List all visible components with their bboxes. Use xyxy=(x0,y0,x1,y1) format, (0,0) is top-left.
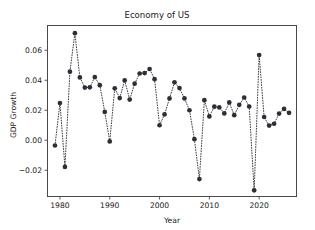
y-tick-label: −0.02 xyxy=(19,166,42,175)
data-point xyxy=(167,96,172,101)
y-tick-label: 0.00 xyxy=(25,136,42,145)
data-point xyxy=(232,113,237,118)
data-point xyxy=(262,115,267,120)
data-point xyxy=(237,103,242,108)
y-axis-ticks: −0.020.000.020.040.06 xyxy=(19,46,48,175)
data-point xyxy=(147,67,152,72)
data-point xyxy=(92,75,97,80)
data-point xyxy=(177,86,182,91)
data-point xyxy=(242,95,247,100)
x-axis-ticks: 19801990200020102020 xyxy=(50,197,269,211)
chart-figure: Economy of US Year GDP Growth −0.020.000… xyxy=(0,0,315,230)
data-point xyxy=(127,97,132,102)
x-tick-label: 2000 xyxy=(150,201,169,210)
data-point xyxy=(152,77,157,82)
y-tick-label: 0.06 xyxy=(25,46,42,55)
x-tick-label: 1980 xyxy=(50,201,69,210)
chart-canvas: Economy of US Year GDP Growth −0.020.000… xyxy=(0,0,315,230)
data-point xyxy=(117,96,122,101)
plot-background xyxy=(48,26,297,197)
data-point xyxy=(73,31,78,36)
data-point xyxy=(63,165,68,170)
data-point xyxy=(53,143,58,148)
data-point xyxy=(122,78,127,83)
y-axis-label: GDP Growth xyxy=(9,92,18,138)
x-tick-label: 2010 xyxy=(200,201,219,210)
data-point xyxy=(202,98,207,103)
data-point xyxy=(272,121,277,126)
data-point xyxy=(182,96,187,101)
x-axis-label: Year xyxy=(163,216,181,225)
data-point xyxy=(87,85,92,90)
data-point xyxy=(222,111,227,116)
data-point xyxy=(192,137,197,142)
data-point xyxy=(78,75,83,80)
data-point xyxy=(83,85,88,90)
data-point xyxy=(162,112,167,117)
data-point xyxy=(187,108,192,113)
data-point xyxy=(207,114,212,119)
data-point xyxy=(107,139,112,144)
data-point xyxy=(157,123,162,128)
data-point xyxy=(68,69,73,74)
data-point xyxy=(132,81,137,86)
data-point xyxy=(217,105,222,110)
data-point xyxy=(247,104,252,109)
data-point xyxy=(227,100,232,105)
data-point xyxy=(257,53,262,58)
data-point xyxy=(172,80,177,85)
data-point xyxy=(212,104,217,109)
data-point xyxy=(142,71,147,76)
x-tick-label: 1990 xyxy=(100,201,119,210)
data-point xyxy=(102,110,107,115)
data-point xyxy=(252,188,257,193)
chart-title: Economy of US xyxy=(124,10,189,20)
data-point xyxy=(97,83,102,88)
data-point xyxy=(197,177,202,182)
data-point xyxy=(58,101,63,106)
data-point xyxy=(137,71,142,76)
data-point xyxy=(287,110,292,115)
x-tick-label: 2020 xyxy=(249,201,268,210)
data-point xyxy=(282,107,287,112)
y-tick-label: 0.04 xyxy=(25,76,42,85)
data-point xyxy=(267,123,272,128)
data-point xyxy=(277,111,282,116)
data-point xyxy=(112,86,117,91)
y-tick-label: 0.02 xyxy=(25,106,42,115)
